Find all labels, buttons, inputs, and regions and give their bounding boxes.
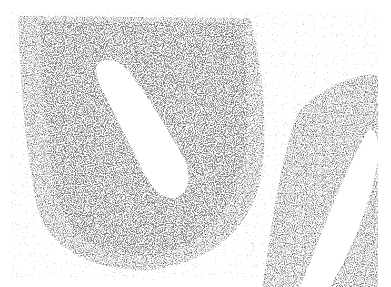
micrograph — [0, 0, 391, 287]
histology-image — [0, 0, 391, 287]
